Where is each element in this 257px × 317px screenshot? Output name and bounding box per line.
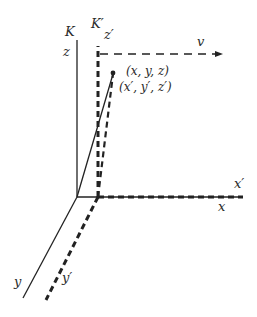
frame-k-label: K (64, 24, 76, 39)
k-z-label: z (62, 44, 70, 59)
event-point (111, 71, 116, 76)
k-prime-position-vector (98, 74, 113, 197)
k-y-label: y (13, 274, 22, 289)
reference-frames-diagram: K K′ z z′ v (x, y, z) (x′, y′, z′) x′ x … (0, 0, 257, 317)
frame-k-axes (23, 40, 240, 298)
k-prime-z-label: z′ (103, 27, 114, 42)
k-x-label: x (218, 199, 226, 214)
velocity-label: v (197, 34, 205, 49)
frame-k-prime-label: K′ (90, 16, 104, 31)
k-prime-x-label: x′ (234, 176, 244, 191)
point-label-primed: (x′, y′, z′) (119, 80, 172, 94)
point-label-unprimed: (x, y, z) (126, 64, 169, 78)
k-prime-y-label: y′ (61, 270, 72, 285)
k-position-vector (77, 74, 113, 197)
